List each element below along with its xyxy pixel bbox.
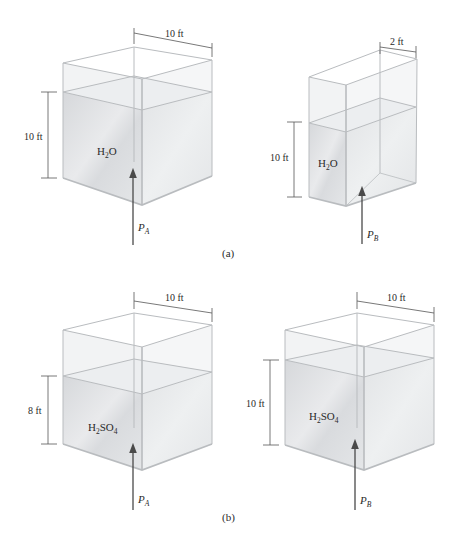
tank-a-left: 10 ft 10 ft H2O PA	[24, 28, 212, 245]
tank-b-right: 10 ft 10 ft H2SO4 PB	[246, 292, 434, 510]
depth-dimension	[263, 360, 279, 445]
width-label: 10 ft	[165, 292, 184, 303]
figure-svg: 10 ft 10 ft H2O PA	[0, 0, 459, 555]
tank-b-left: 10 ft 8 ft H2SO4 PA	[28, 292, 212, 510]
liquid-side-face	[364, 358, 434, 470]
pressure-label: PA	[137, 493, 150, 508]
width-label: 10 ft	[165, 28, 184, 39]
depth-dimension	[41, 376, 57, 444]
depth-label: 10 ft	[24, 131, 43, 142]
depth-label: 8 ft	[28, 405, 42, 416]
caption-a: (a)	[222, 247, 235, 260]
width-label: 2 ft	[390, 36, 404, 47]
depth-label: 10 ft	[246, 398, 265, 409]
width-label: 10 ft	[387, 292, 406, 303]
figure-canvas: 10 ft 10 ft H2O PA	[0, 0, 459, 555]
pressure-label: PB	[366, 228, 379, 243]
tank-a-right: 2 ft 10 ft H2O PB	[270, 36, 417, 244]
pressure-label: PB	[359, 494, 372, 509]
liquid-side-face	[142, 92, 212, 205]
depth-dimension	[41, 92, 57, 178]
pressure-label: PA	[137, 221, 150, 236]
caption-b: (b)	[222, 511, 235, 524]
depth-label: 10 ft	[270, 152, 289, 163]
depth-dimension	[287, 122, 302, 197]
